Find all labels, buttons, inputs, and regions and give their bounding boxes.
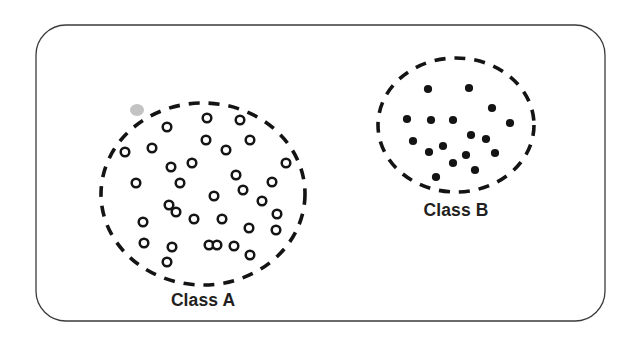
cluster-class-a: Class A xyxy=(101,103,305,310)
data-point-class-b-1 xyxy=(465,84,473,92)
data-point-class-b-2 xyxy=(427,116,435,124)
data-point-class-a-11 xyxy=(176,179,185,188)
data-point-class-b-4 xyxy=(488,104,496,112)
data-point-class-a-10 xyxy=(132,179,141,188)
data-point-class-a-12 xyxy=(239,186,248,195)
clusters-group: Class AClass B xyxy=(101,58,534,310)
data-point-class-a-23 xyxy=(168,243,177,252)
scan-artifacts-group xyxy=(130,104,144,116)
data-point-class-b-3 xyxy=(449,116,457,124)
data-point-class-b-10 xyxy=(482,135,490,143)
data-point-class-a-21 xyxy=(272,226,281,235)
cluster-label-class-a: Class A xyxy=(171,290,236,310)
data-point-class-a-7 xyxy=(246,136,255,145)
data-point-class-a-15 xyxy=(172,208,181,217)
data-point-class-b-14 xyxy=(449,159,457,167)
diagram-canvas: Class AClass B xyxy=(0,0,631,348)
data-point-class-a-14 xyxy=(165,201,174,210)
data-point-class-a-5 xyxy=(188,159,197,168)
data-point-class-a-20 xyxy=(273,210,282,219)
cluster-class-b: Class B xyxy=(378,58,534,220)
data-point-class-a-3 xyxy=(121,148,130,157)
data-point-class-a-32 xyxy=(210,192,219,201)
data-point-class-b-11 xyxy=(425,148,433,156)
data-point-class-b-9 xyxy=(439,142,447,150)
data-point-class-a-22 xyxy=(140,239,149,248)
data-point-class-a-0 xyxy=(163,123,172,132)
data-point-class-b-8 xyxy=(409,137,417,145)
data-point-class-b-0 xyxy=(424,85,432,93)
data-point-class-a-30 xyxy=(282,159,291,168)
data-point-class-a-25 xyxy=(213,241,222,250)
data-point-class-a-4 xyxy=(148,144,157,153)
data-point-class-b-6 xyxy=(506,119,514,127)
data-point-class-a-9 xyxy=(232,171,241,180)
data-point-class-a-18 xyxy=(218,215,227,224)
cluster-boundary-class-a xyxy=(101,103,305,285)
data-point-class-a-31 xyxy=(258,197,267,206)
data-point-class-a-28 xyxy=(163,258,172,267)
data-point-class-a-26 xyxy=(230,242,239,251)
data-point-class-a-27 xyxy=(246,251,255,260)
outer-rounded-rectangle xyxy=(36,25,605,321)
scan-smudge xyxy=(130,104,144,116)
data-point-class-b-13 xyxy=(491,149,499,157)
cluster-diagram: Class AClass B xyxy=(0,0,631,348)
data-point-class-a-29 xyxy=(202,136,211,145)
data-point-class-b-7 xyxy=(467,131,475,139)
data-point-class-a-19 xyxy=(245,224,254,233)
data-point-class-b-12 xyxy=(462,151,470,159)
data-point-class-b-15 xyxy=(432,173,440,181)
cluster-label-class-b: Class B xyxy=(424,200,489,220)
data-point-class-a-2 xyxy=(236,116,245,125)
data-point-class-a-1 xyxy=(203,114,212,123)
data-point-class-a-13 xyxy=(268,178,277,187)
data-point-class-a-16 xyxy=(139,218,148,227)
data-point-class-a-8 xyxy=(167,163,176,172)
data-point-class-b-5 xyxy=(403,115,411,123)
data-point-class-a-6 xyxy=(222,146,231,155)
data-point-class-a-17 xyxy=(190,215,199,224)
data-point-class-b-16 xyxy=(471,166,479,174)
